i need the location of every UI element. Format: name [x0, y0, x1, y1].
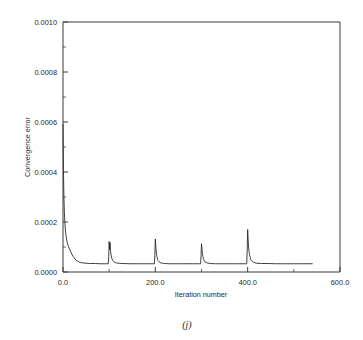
x-tick-label: 0.0	[58, 278, 68, 287]
y-axis-title: Convergence error	[23, 116, 32, 177]
y-tick-label: 0.0004	[34, 168, 57, 177]
y-tick-label: 0.0010	[34, 18, 57, 27]
y-tick-label: 0.0000	[34, 268, 57, 277]
x-tick-label: 400.0	[238, 278, 257, 287]
x-axis-title: Iteration number	[175, 290, 228, 299]
figure-container: 0.00000.00020.00040.00060.00080.0010 0.0…	[0, 0, 363, 340]
y-tick-label: 0.0002	[34, 218, 57, 227]
convergence-error-chart: 0.00000.00020.00040.00060.00080.0010 0.0…	[0, 0, 363, 340]
x-tick-label: 600.0	[331, 278, 350, 287]
y-tick-label: 0.0008	[34, 68, 57, 77]
x-tick-label: 200.0	[146, 278, 165, 287]
y-tick-label: 0.0006	[34, 118, 57, 127]
figure-caption: (j)	[182, 319, 192, 331]
